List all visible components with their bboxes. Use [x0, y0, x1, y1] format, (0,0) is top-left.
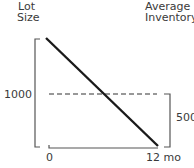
- average-inventory-bracket: [164, 94, 170, 147]
- lot-size-value: 1000: [4, 90, 32, 100]
- time-axis: [49, 145, 158, 148]
- average-inventory-value: 500: [176, 113, 194, 123]
- x-start-label: 0: [46, 153, 53, 163]
- inventory-diagram: [0, 0, 194, 168]
- inventory-depletion-line: [46, 38, 158, 146]
- x-end-label: 12 mo: [146, 153, 181, 163]
- lot-size-bracket: [35, 39, 40, 147]
